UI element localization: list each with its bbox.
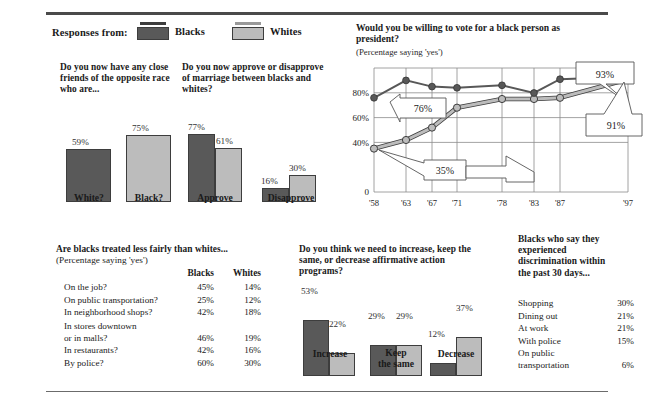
bar-category-keepsame-line2: the same (378, 358, 414, 369)
row-label: At work (518, 323, 548, 333)
dark-swatch-icon (137, 27, 169, 40)
infographic-page: Responses from: Blacks Whites Do you now… (0, 0, 654, 405)
marriage-bar-chart: 77% 61% Approve 16% 30% Disapprove (182, 112, 328, 202)
svg-text:80%: 80% (353, 88, 370, 98)
callout-76-label: 76% (414, 103, 432, 114)
top-rule (46, 12, 608, 15)
bar-value-marriage-approve-whites: 61% (216, 136, 233, 146)
callout-91-label: 91% (607, 120, 625, 131)
svg-text:60%: 60% (353, 113, 370, 123)
svg-text:'97: '97 (623, 198, 634, 208)
row-label-cont: or in malls? (64, 333, 107, 343)
bar-category-friends-black: Black? (120, 192, 178, 203)
svg-text:'71: '71 (452, 198, 462, 208)
bar-value-marriage-disapprove-blacks: 16% (261, 176, 278, 186)
fairness-title-bold: Are blacks treated less fairly than whit… (56, 244, 228, 254)
callout-93-label: 93% (596, 69, 614, 80)
row-blacks: 60% (174, 358, 214, 368)
bar-value-decrease-whites: 37% (456, 303, 473, 313)
row-whites: 30% (219, 358, 261, 368)
table-row: By police? 60% 30% (56, 358, 261, 370)
row-whites: 12% (219, 295, 261, 305)
bar-category-friends-white: White? (60, 192, 118, 203)
svg-text:40%: 40% (353, 138, 370, 148)
y-axis-tick-labels: 80% 60% 40% 0 (353, 88, 370, 197)
legend-item-blacks: Blacks (137, 22, 169, 40)
row-value: 21% (594, 311, 634, 321)
row-value: 21% (594, 323, 634, 333)
president-line-chart: Would you be willing to vote for a black… (338, 22, 650, 212)
table-row: In neighborhood shops? 42% 18% (56, 307, 261, 319)
list-item: Shopping 30% (518, 298, 634, 310)
fairness-header-whites: Whites (219, 268, 261, 278)
bar-value-keepsame-whites: 29% (396, 311, 413, 321)
svg-text:'67: '67 (427, 198, 438, 208)
table-row: In stores downtown or in malls? 46% 19% (56, 321, 261, 345)
row-label: By police? (64, 358, 104, 368)
row-value: 6% (594, 360, 634, 370)
svg-text:'58: '58 (369, 198, 379, 208)
row-value: 30% (594, 298, 634, 308)
bar-value-friends-black: 75% (132, 123, 149, 133)
row-label: In restaurants? (64, 345, 118, 355)
table-row: On public transportation? 25% 12% (56, 295, 261, 307)
fairness-header-blacks: Blacks (174, 268, 214, 278)
fairness-title: Are blacks treated less fairly than whit… (56, 244, 241, 266)
president-chart-subtitle: (Percentage saying 'yes') (356, 47, 443, 57)
row-blacks: 42% (174, 345, 214, 355)
bar-category-keepsame-line1: Keep (385, 347, 406, 358)
callout-76: 76% (390, 94, 446, 122)
row-label: On public transportation? (64, 295, 158, 305)
svg-text:'87: '87 (555, 198, 566, 208)
legend-item-label: Whites (270, 26, 302, 37)
marriage-question-title: Do you now approve or disapprove of marr… (182, 62, 328, 96)
callout-35-leader (466, 156, 534, 182)
row-blacks: 42% (174, 307, 214, 317)
legend-item-label: Blacks (175, 26, 205, 37)
bar-value-marriage-approve-blacks: 77% (188, 122, 205, 132)
row-whites: 19% (219, 333, 261, 343)
legend-label: Responses from: (52, 27, 128, 38)
svg-text:0: 0 (365, 187, 370, 197)
callout-35: 35% (379, 150, 466, 180)
light-swatch-top-icon (235, 22, 261, 25)
bar-value-increase-blacks: 53% (301, 286, 318, 296)
row-label: On public (518, 348, 555, 358)
x-axis-tick-labels: '58 '63 '67 '71 '78 '83 '87 '97 (369, 198, 634, 208)
legend-item-whites: Whites (232, 22, 264, 40)
table-row: On the job? 45% 14% (56, 282, 261, 294)
svg-text:'63: '63 (401, 198, 411, 208)
bar-value-keepsame-blacks: 29% (368, 311, 385, 321)
row-label: Shopping (518, 298, 553, 308)
bar-decrease-blacks (430, 363, 456, 376)
friends-bar-chart: 59% White? 75% Black? (60, 112, 180, 202)
president-chart-title: Would you be willing to vote for a black… (356, 22, 596, 45)
legend: Responses from: Blacks Whites (52, 22, 312, 46)
row-label: With police (518, 336, 561, 346)
row-label-cont: transportation (518, 360, 569, 370)
row-whites: 14% (219, 282, 261, 292)
light-swatch-icon (232, 27, 264, 40)
dark-swatch-top-icon (140, 22, 166, 25)
callout-35-label: 35% (436, 165, 454, 176)
bar-category-keepsame: Keep the same (365, 348, 427, 369)
row-blacks: 25% (174, 295, 214, 305)
bar-category-marriage-disapprove: Disapprove (254, 192, 328, 203)
bar-category-decrease: Decrease (425, 348, 487, 359)
row-label: On the job? (64, 282, 107, 292)
affirmative-title: Do you think we need to increase, keep t… (299, 244, 481, 278)
bar-value-friends-white: 59% (72, 137, 89, 147)
bar-value-decrease-blacks: 12% (428, 329, 445, 339)
bar-category-marriage-approve: Approve (182, 192, 248, 203)
bar-value-marriage-disapprove-whites: 30% (289, 163, 306, 173)
list-item: Dining out 21% (518, 311, 634, 323)
svg-text:'78: '78 (497, 198, 507, 208)
friends-question-title: Do you now have any close friends of the… (60, 62, 180, 96)
affirmative-bar-chart: 53% 22% Increase 29% 29% Keep the same 1… (299, 288, 484, 376)
svg-text:'83: '83 (529, 198, 539, 208)
bar-value-increase-whites: 22% (329, 319, 346, 329)
row-blacks: 46% (174, 333, 214, 343)
row-whites: 18% (219, 307, 261, 317)
row-blacks: 45% (174, 282, 214, 292)
row-whites: 16% (219, 345, 261, 355)
